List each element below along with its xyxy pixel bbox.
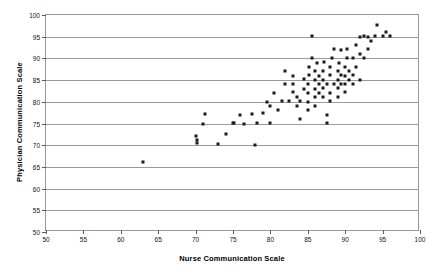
- data-point: [142, 160, 145, 163]
- data-point: [295, 96, 298, 99]
- data-point: [347, 79, 350, 82]
- data-point: [269, 105, 272, 108]
- x-tick-mark: [158, 230, 159, 234]
- data-point: [308, 74, 311, 77]
- data-point: [336, 69, 339, 72]
- data-point: [306, 83, 309, 86]
- y-axis-title: Physician Communication Scale: [13, 6, 27, 238]
- data-point: [344, 74, 347, 77]
- x-tick-mark: [308, 230, 309, 234]
- data-point: [336, 79, 339, 82]
- data-point: [314, 69, 317, 72]
- y-tick-mark: [42, 167, 46, 168]
- gridline: [46, 80, 418, 81]
- gridline: [46, 167, 418, 168]
- data-point: [295, 105, 298, 108]
- data-point: [338, 61, 341, 64]
- gridline: [46, 210, 418, 211]
- y-tick-label: 75: [33, 120, 40, 127]
- data-point: [202, 123, 205, 126]
- data-point: [345, 57, 348, 60]
- x-tick-mark: [420, 230, 421, 234]
- data-point: [366, 35, 369, 38]
- data-point: [224, 132, 227, 135]
- data-point: [347, 69, 350, 72]
- data-point: [291, 91, 294, 94]
- data-point: [389, 35, 392, 38]
- x-tick-label: 55: [80, 236, 87, 243]
- x-tick-mark: [233, 230, 234, 234]
- x-tick-mark: [83, 230, 84, 234]
- y-tick-mark: [42, 124, 46, 125]
- data-point: [203, 112, 206, 115]
- y-tick-label: 50: [33, 229, 40, 236]
- data-point: [250, 112, 253, 115]
- y-tick-mark: [42, 58, 46, 59]
- data-point: [217, 143, 220, 146]
- data-point: [261, 112, 264, 115]
- data-point: [332, 83, 335, 86]
- data-point: [351, 73, 354, 76]
- data-point: [196, 142, 199, 145]
- data-point: [381, 34, 384, 37]
- x-tick-mark: [345, 230, 346, 234]
- x-tick-label: 100: [415, 236, 426, 243]
- y-tick-mark: [42, 80, 46, 81]
- y-tick-label: 95: [33, 33, 40, 40]
- data-point: [351, 83, 354, 86]
- data-point: [359, 78, 362, 81]
- data-point: [362, 57, 365, 60]
- data-point: [340, 48, 343, 51]
- data-point: [291, 74, 294, 77]
- x-tick-mark: [121, 230, 122, 234]
- data-point: [366, 48, 369, 51]
- x-tick-label: 50: [42, 236, 49, 243]
- x-tick-mark: [46, 230, 47, 234]
- data-point: [291, 82, 294, 85]
- data-point: [340, 83, 343, 86]
- data-point: [314, 79, 317, 82]
- x-tick-label: 85: [304, 236, 311, 243]
- x-tick-label: 75: [229, 236, 236, 243]
- data-point: [269, 121, 272, 124]
- gridline: [46, 145, 418, 146]
- data-point: [280, 99, 283, 102]
- data-point: [325, 121, 328, 124]
- y-tick-label: 90: [33, 55, 40, 62]
- data-point: [243, 122, 246, 125]
- data-point: [375, 23, 378, 26]
- data-point: [321, 70, 324, 73]
- x-tick-label: 95: [379, 236, 386, 243]
- data-point: [315, 61, 318, 64]
- data-point: [336, 87, 339, 90]
- data-point: [351, 57, 354, 60]
- x-tick-mark: [270, 230, 271, 234]
- data-point: [306, 108, 309, 111]
- data-point: [318, 92, 321, 95]
- data-point: [385, 30, 388, 33]
- data-point: [314, 87, 317, 90]
- plot-area: 50556065707580859095100 5055606570758085…: [45, 14, 419, 231]
- data-point: [362, 35, 365, 38]
- data-point: [344, 91, 347, 94]
- y-tick-mark: [42, 15, 46, 16]
- data-point: [332, 47, 335, 50]
- data-point: [194, 134, 197, 137]
- gridline: [46, 102, 418, 103]
- data-point: [344, 82, 347, 85]
- gridline: [46, 189, 418, 190]
- y-tick-mark: [42, 102, 46, 103]
- data-point: [318, 74, 321, 77]
- data-point: [273, 91, 276, 94]
- data-point: [318, 83, 321, 86]
- data-point: [359, 35, 362, 38]
- data-point: [329, 100, 332, 103]
- data-point: [355, 65, 358, 68]
- data-point: [288, 100, 291, 103]
- data-point: [329, 66, 332, 69]
- x-tick-label: 90: [342, 236, 349, 243]
- data-point: [308, 66, 311, 69]
- data-point: [325, 83, 328, 86]
- x-tick-mark: [196, 230, 197, 234]
- data-point: [299, 100, 302, 103]
